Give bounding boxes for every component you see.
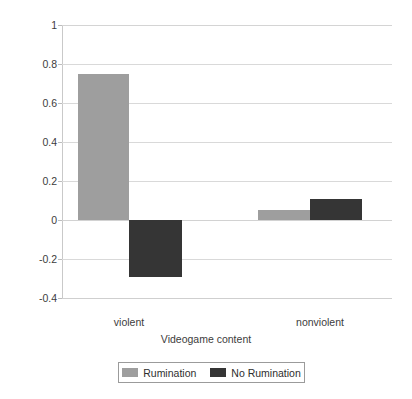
y-tick-label: 0.6 [1, 98, 57, 108]
gridline-neg0_4 [62, 298, 392, 299]
y-tick-mark [58, 298, 62, 299]
y-tick-label: 0.8 [1, 59, 57, 69]
x-category-label-violent: violent [99, 316, 159, 328]
gridline-zero [62, 220, 392, 221]
y-tick-mark [58, 259, 62, 260]
plot-area [62, 25, 392, 298]
bar-nonviolent-no-rumination [310, 199, 362, 221]
y-tick-mark [58, 181, 62, 182]
legend-entry-rumination: Rumination [122, 367, 196, 379]
bar-violent-no-rumination [129, 220, 182, 277]
y-tick-mark [58, 103, 62, 104]
y-tick-mark [58, 142, 62, 143]
bar-nonviolent-rumination [258, 210, 310, 220]
legend-swatch-icon [210, 368, 226, 377]
y-tick-mark [58, 64, 62, 65]
y-tick-mark [58, 25, 62, 26]
y-tick-label: 1 [1, 20, 57, 30]
legend-label: No Rumination [231, 367, 300, 379]
y-tick-mark [58, 220, 62, 221]
gridline-neg0_2 [62, 259, 392, 260]
y-tick-label: 0 [1, 215, 57, 225]
bar-chart: 1 0.8 0.6 0.4 0.2 0 -0.2 -0.4 [0, 0, 412, 399]
x-category-label-nonviolent: nonviolent [280, 316, 360, 328]
y-tick-label: -0.4 [1, 293, 57, 303]
x-axis-title: Videogame content [0, 333, 412, 345]
chart-legend: Rumination No Rumination [118, 362, 305, 383]
legend-swatch-icon [122, 368, 138, 377]
legend-label: Rumination [143, 367, 196, 379]
y-tick-label: 0.4 [1, 137, 57, 147]
y-tick-label: -0.2 [1, 254, 57, 264]
bar-violent-rumination [78, 74, 129, 220]
y-tick-label: 0.2 [1, 176, 57, 186]
gridline-0_8 [62, 64, 392, 65]
gridline-1 [62, 25, 392, 26]
legend-entry-no-rumination: No Rumination [210, 367, 300, 379]
